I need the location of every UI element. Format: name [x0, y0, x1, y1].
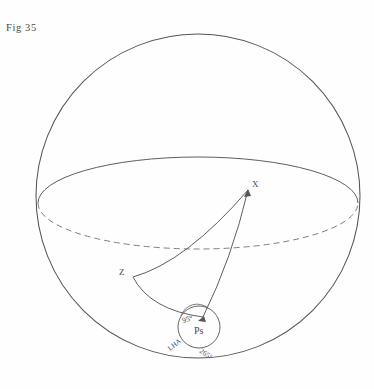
- sphere-diagram: X Z Ps 95° LHA 265°: [0, 0, 374, 389]
- arc-z-to-ps: [133, 277, 203, 317]
- equator-back-arc: [38, 157, 358, 203]
- arc-ps-to-x: [203, 190, 248, 317]
- vertex-label-z: Z: [119, 267, 125, 277]
- lha-value-label: 265°: [198, 347, 214, 361]
- equator-front-arc: [38, 203, 358, 249]
- pole-label-ps: Ps: [194, 325, 204, 336]
- sphere-outline: [36, 34, 360, 358]
- figure-canvas: Fig 35 X Z Ps 95° LHA 265°: [0, 0, 374, 389]
- arc-z-to-x: [133, 190, 248, 277]
- vertex-label-x: X: [252, 179, 259, 189]
- lha-label: LHA: [166, 337, 183, 353]
